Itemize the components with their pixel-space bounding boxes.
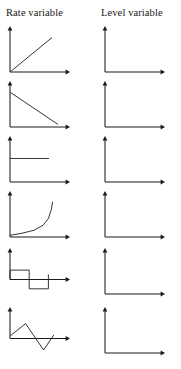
y-axis-arrow-icon: [8, 81, 13, 85]
rate-level-variable-worksheet: Rate variable Level variable: [0, 0, 181, 369]
data-series-linear-increase: [10, 38, 52, 72]
chart-cell-rate-row-4: [4, 189, 82, 243]
axis-diagram-linear-decrease: [4, 79, 82, 133]
data-series-linear-decrease: [10, 92, 58, 124]
y-axis-arrow-icon: [103, 191, 108, 195]
chart-cell-level-row-5: [99, 246, 177, 300]
chart-cell-level-row-2: [99, 79, 177, 133]
x-axis-arrow-icon: [66, 125, 70, 130]
x-axis-arrow-icon: [161, 125, 165, 130]
x-axis-arrow-icon: [66, 180, 70, 185]
axis-diagram-blank: [99, 246, 177, 300]
chart-cell-rate-row-1: [4, 24, 82, 78]
x-axis-arrow-icon: [161, 70, 165, 75]
axis-diagram-blank: [99, 189, 177, 243]
chart-cell-level-row-3: [99, 134, 177, 188]
x-axis-arrow-icon: [66, 336, 70, 341]
axis-diagram-triangular-zigzag: [4, 305, 82, 359]
axis-diagram-constant: [4, 134, 82, 188]
chart-cell-rate-row-2: [4, 79, 82, 133]
data-series-triangular-zigzag: [10, 324, 54, 350]
x-axis-arrow-icon: [161, 351, 165, 356]
axis-diagram-blank: [99, 24, 177, 78]
data-series-exponential-growth: [10, 202, 53, 236]
axis-diagram-square-pulse-positive-then-negative: [4, 246, 82, 300]
y-axis-arrow-icon: [103, 26, 108, 30]
column-headers: Rate variable Level variable: [0, 6, 181, 22]
y-axis-arrow-icon: [103, 307, 108, 311]
chart-cell-level-row-4: [99, 189, 177, 243]
level-column-title: Level variable: [101, 6, 163, 20]
chart-cell-rate-row-6: [4, 305, 82, 359]
axis-diagram-linear-increase: [4, 24, 82, 78]
chart-cell-level-row-6: [99, 305, 177, 359]
chart-cell-rate-row-3: [4, 134, 82, 188]
axis-diagram-blank: [99, 305, 177, 359]
y-axis-arrow-icon: [103, 248, 108, 252]
y-axis-arrow-icon: [8, 307, 13, 311]
x-axis-arrow-icon: [66, 277, 70, 282]
y-axis-arrow-icon: [8, 26, 13, 30]
y-axis-arrow-icon: [8, 248, 13, 252]
axis-diagram-exponential-growth: [4, 189, 82, 243]
axis-diagram-blank: [99, 134, 177, 188]
y-axis-arrow-icon: [8, 191, 13, 195]
x-axis-arrow-icon: [66, 235, 70, 240]
chart-cell-rate-row-5: [4, 246, 82, 300]
y-axis-arrow-icon: [8, 136, 13, 140]
chart-grid: [0, 22, 181, 369]
y-axis-arrow-icon: [103, 81, 108, 85]
chart-cell-level-row-1: [99, 24, 177, 78]
x-axis-arrow-icon: [66, 70, 70, 75]
x-axis-arrow-icon: [161, 235, 165, 240]
y-axis-arrow-icon: [103, 136, 108, 140]
x-axis-arrow-icon: [161, 180, 165, 185]
x-axis-arrow-icon: [161, 292, 165, 297]
rate-column-title: Rate variable: [6, 6, 63, 20]
axis-diagram-blank: [99, 79, 177, 133]
